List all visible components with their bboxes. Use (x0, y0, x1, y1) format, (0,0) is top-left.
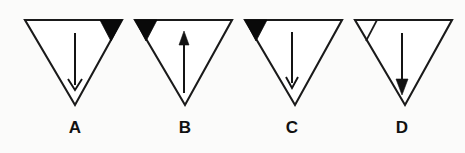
panel-d[interactable]: D (355, 20, 452, 137)
triangle-arrow-figure: A B C D (0, 0, 465, 153)
panel-label-a: A (69, 118, 81, 137)
panel-b[interactable]: B (135, 20, 232, 137)
panel-label-b: B (179, 118, 191, 137)
panel-c[interactable]: C (245, 20, 342, 137)
panel-label-c: C (286, 118, 298, 137)
panel-a[interactable]: A (25, 20, 122, 137)
panel-label-d: D (396, 118, 408, 137)
figure-container: A B C D (0, 0, 465, 153)
